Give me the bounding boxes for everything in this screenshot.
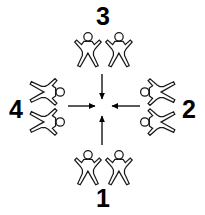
- stick-figure-icon: [106, 33, 133, 67]
- stick-figure-icon: [75, 151, 102, 185]
- group-label-left: 4: [4, 97, 28, 122]
- group-label-right: 2: [177, 97, 201, 122]
- figure-group-right: [141, 79, 175, 136]
- diagram-canvas: 3 2 1 4: [0, 0, 205, 215]
- convergence-diagram: [0, 0, 205, 215]
- stick-figure-icon: [106, 151, 133, 185]
- stick-figure-icon: [75, 33, 102, 67]
- figure-group-bottom: [75, 151, 133, 185]
- figure-group-top: [75, 33, 133, 67]
- stick-figure-icon: [141, 79, 175, 106]
- figure-group-left: [30, 79, 64, 136]
- group-label-top: 3: [88, 4, 118, 29]
- stick-figure-icon: [30, 109, 64, 136]
- group-label-bottom: 1: [88, 186, 118, 211]
- stick-figure-icon: [141, 109, 175, 136]
- stick-figure-icon: [30, 79, 64, 106]
